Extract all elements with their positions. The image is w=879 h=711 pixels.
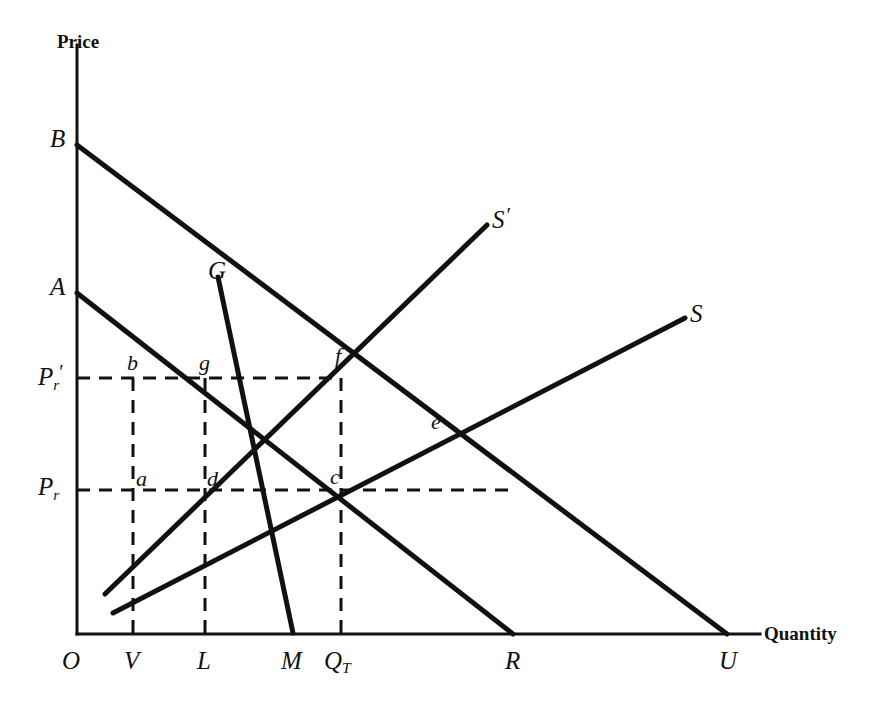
curve-label-S-prime: S′ (492, 205, 511, 232)
point-label-c: c (330, 466, 340, 488)
x-axis-label: Quantity (764, 624, 837, 643)
x-tick-label-U: U (719, 648, 737, 673)
curve-label-S: S (690, 301, 703, 326)
point-label-d: d (207, 468, 218, 490)
demand-curves-group (77, 145, 727, 634)
x-tick-label-R: R (505, 648, 520, 673)
price-label-pr-prime: Pr′ (38, 362, 64, 392)
price-label-pr-prime-text: Pr′ (38, 363, 64, 390)
point-label-g: g (199, 352, 210, 374)
price-label-pr-text: Pr (38, 473, 59, 500)
economics-diagram-figure: Price Quantity Pr′ Pr O V L M QT R U B A… (0, 0, 879, 711)
x-tick-label-M: M (281, 648, 302, 673)
curve-label-S-prime-text: S′ (492, 206, 511, 233)
point-label-f: f (335, 345, 341, 367)
x-tick-label-V: V (124, 648, 139, 673)
x-tick-label-QT: QT (324, 648, 351, 676)
supply-curves-group (105, 225, 685, 613)
point-label-e: e (431, 411, 441, 433)
price-label-pr: Pr (38, 474, 59, 502)
demand-curve-A (77, 293, 513, 634)
curve-label-G: G (208, 258, 226, 283)
point-label-a: a (136, 468, 147, 490)
demand-curve-B (77, 145, 727, 634)
axes-group (77, 45, 760, 634)
y-axis-label: Price (57, 32, 99, 51)
curve-label-B: B (50, 126, 65, 151)
curve-label-A: A (50, 274, 65, 299)
x-tick-label-O: O (62, 648, 80, 673)
point-label-b: b (127, 352, 138, 374)
x-tick-label-QT-text: QT (324, 647, 351, 674)
x-tick-label-L: L (197, 648, 211, 673)
